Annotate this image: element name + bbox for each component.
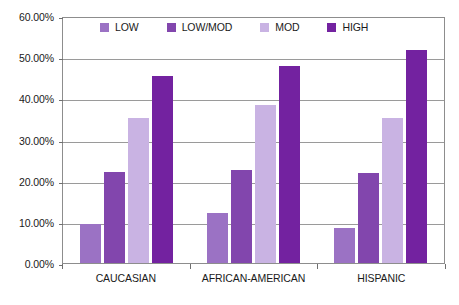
x-axis-category-label: CAUCASIAN — [62, 272, 190, 284]
y-axis-tick-label: 40.00% — [19, 93, 54, 105]
bar-cluster — [80, 18, 173, 263]
bar-high[interactable] — [406, 50, 427, 263]
bar-low-mod[interactable] — [231, 170, 252, 263]
bar-low[interactable] — [207, 213, 228, 263]
legend-item[interactable]: LOW/MOD — [167, 21, 233, 33]
x-axis-category-label: HISPANIC — [317, 272, 445, 284]
bar-mod[interactable] — [255, 105, 276, 263]
bar-low[interactable] — [334, 228, 355, 263]
y-axis-tick-label: 10.00% — [19, 217, 54, 229]
x-axis-separator-tick — [445, 264, 446, 269]
bar-group — [63, 18, 190, 263]
y-axis-labels: 60.00%50.00%40.00%30.00%20.00%10.00%0.00… — [0, 11, 60, 264]
y-axis-tick-label: 50.00% — [19, 52, 54, 64]
bar-groups — [63, 18, 444, 263]
bar-low-mod[interactable] — [358, 173, 379, 263]
x-axis-separator-tick — [317, 264, 318, 269]
x-axis-separator-tick — [62, 264, 63, 269]
legend-item[interactable]: MOD — [260, 21, 299, 33]
y-axis-tick-label: 60.00% — [19, 11, 54, 23]
bar-low-mod[interactable] — [104, 172, 125, 263]
legend-label: LOW — [115, 21, 139, 33]
plot-area — [62, 17, 445, 264]
bar-group — [317, 18, 444, 263]
bar-low[interactable] — [80, 224, 101, 263]
bar-high[interactable] — [279, 66, 300, 263]
x-axis-category-label: AFRICAN-AMERICAN — [190, 272, 318, 284]
legend-swatch-icon — [327, 23, 336, 32]
legend-item[interactable]: HIGH — [327, 21, 368, 33]
y-axis-tick-label: 0.00% — [25, 258, 54, 270]
bar-group — [190, 18, 317, 263]
legend-item[interactable]: LOW — [100, 21, 139, 33]
legend-swatch-icon — [167, 23, 176, 32]
chart-plot-wrapper: 60.00%50.00%40.00%30.00%20.00%10.00%0.00… — [0, 0, 459, 305]
bar-high[interactable] — [152, 76, 173, 263]
chart-legend: LOWLOW/MODMODHIGH — [100, 21, 368, 33]
bar-cluster — [207, 18, 300, 263]
legend-label: HIGH — [342, 21, 368, 33]
legend-swatch-icon — [100, 23, 109, 32]
legend-label: MOD — [275, 21, 299, 33]
bar-cluster — [334, 18, 427, 263]
y-axis-tick-label: 20.00% — [19, 176, 54, 188]
x-axis-labels: CAUCASIANAFRICAN-AMERICANHISPANIC — [62, 272, 445, 284]
legend-swatch-icon — [260, 23, 269, 32]
bar-mod[interactable] — [382, 118, 403, 263]
bar-chart: 60.00%50.00%40.00%30.00%20.00%10.00%0.00… — [0, 0, 459, 305]
bar-mod[interactable] — [128, 118, 149, 263]
y-axis-tick-label: 30.00% — [19, 135, 54, 147]
x-axis-separator-tick — [190, 264, 191, 269]
legend-label: LOW/MOD — [182, 21, 233, 33]
